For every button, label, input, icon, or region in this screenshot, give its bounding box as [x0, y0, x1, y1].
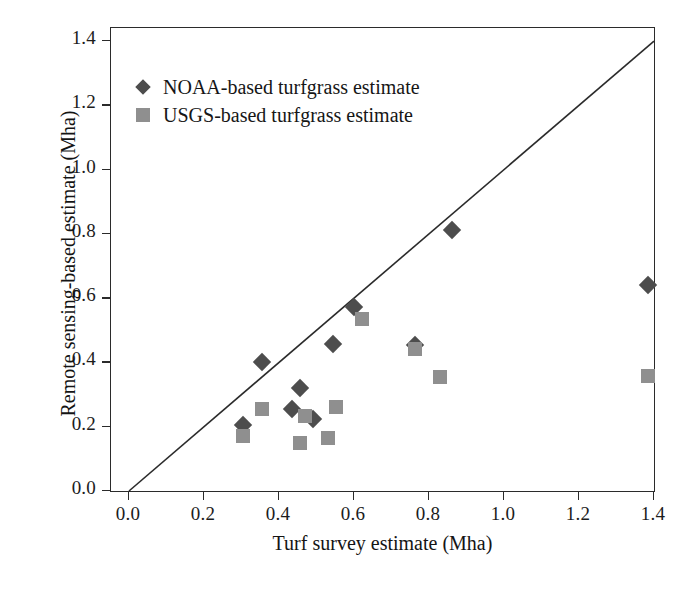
- data-point-usgs: [329, 400, 343, 414]
- y-tick-mark: [102, 361, 110, 362]
- x-tick-mark: [578, 492, 579, 500]
- y-tick-mark: [102, 490, 110, 491]
- y-tick-mark: [102, 40, 110, 41]
- data-point-usgs: [255, 402, 269, 416]
- x-tick-label: 0.0: [98, 503, 158, 525]
- x-axis-title: Turf survey estimate (Mha): [110, 532, 655, 555]
- y-tick-mark: [102, 169, 110, 170]
- x-tick-mark: [278, 492, 279, 500]
- x-tick-mark: [503, 492, 504, 500]
- data-point-usgs: [321, 431, 335, 445]
- legend-item-noaa: NOAA-based turfgrass estimate: [132, 74, 420, 100]
- data-point-usgs: [408, 342, 422, 356]
- x-tick-label: 0.8: [398, 503, 458, 525]
- legend-label-usgs: USGS-based turfgrass estimate: [163, 104, 413, 127]
- x-tick-label: 1.0: [473, 503, 533, 525]
- data-point-usgs: [293, 436, 307, 450]
- y-tick-mark: [102, 297, 110, 298]
- y-tick-mark: [102, 426, 110, 427]
- data-point-usgs: [433, 370, 447, 384]
- chart-legend: NOAA-based turfgrass estimate USGS-based…: [132, 74, 420, 130]
- data-point-usgs: [298, 409, 312, 423]
- x-tick-mark: [653, 492, 654, 500]
- legend-label-noaa: NOAA-based turfgrass estimate: [163, 76, 420, 99]
- y-tick-mark: [102, 104, 110, 105]
- data-point-usgs: [355, 312, 369, 326]
- x-tick-label: 0.2: [173, 503, 233, 525]
- x-tick-label: 1.4: [623, 503, 683, 525]
- data-point-usgs: [236, 429, 250, 443]
- square-marker-icon: [132, 104, 154, 126]
- y-axis-title: Remote sensing-based estimate (Mha): [57, 29, 80, 499]
- x-tick-label: 0.6: [323, 503, 383, 525]
- x-tick-mark: [203, 492, 204, 500]
- diamond-marker-icon: [132, 76, 154, 98]
- chart-page: 0.00.20.40.60.81.01.21.4 0.00.20.40.60.8…: [0, 0, 689, 599]
- x-tick-label: 1.2: [548, 503, 608, 525]
- x-tick-mark: [353, 492, 354, 500]
- data-point-usgs: [641, 369, 655, 383]
- legend-item-usgs: USGS-based turfgrass estimate: [132, 102, 420, 128]
- x-tick-mark: [128, 492, 129, 500]
- x-tick-label: 0.4: [248, 503, 308, 525]
- y-tick-mark: [102, 233, 110, 234]
- x-tick-mark: [428, 492, 429, 500]
